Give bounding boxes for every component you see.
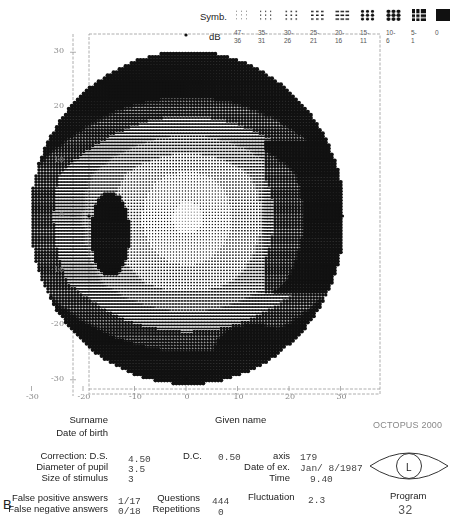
dc-label: D.C.	[183, 450, 202, 461]
y-tick-label: -30	[40, 374, 64, 383]
y-tick-label: 10	[40, 155, 64, 164]
x-tick-label: 30	[332, 392, 352, 401]
false-positive-label: False positive answers	[0, 492, 108, 503]
x-tick-label: 0	[177, 392, 197, 401]
surname-label: Surname	[0, 414, 108, 425]
time-label: Time	[232, 472, 290, 483]
x-tick-label: -30	[23, 392, 43, 401]
date-label: Date of ex.	[232, 461, 290, 472]
stimulus-label: Size of stimulus	[0, 472, 108, 483]
brand-logo: OCTOPUS 2000	[373, 420, 442, 430]
stimulus-value: 3	[128, 474, 134, 485]
repetitions-label: Repetitions	[140, 503, 200, 514]
visual-field-chart	[0, 0, 452, 420]
x-tick-label: -10	[126, 392, 146, 401]
questions-value: 444	[212, 496, 229, 507]
correction-ds-label: Correction: D.S.	[0, 450, 108, 461]
fluctuation-value: 2.3	[308, 495, 325, 506]
x-tick-label: 10	[229, 392, 249, 401]
axis-value: 179	[300, 452, 317, 463]
questions-label: Questions	[140, 492, 200, 503]
false-negative-value: 0/18	[118, 506, 141, 517]
dob-label: Date of birth	[0, 427, 108, 438]
left-eye-icon: L	[368, 444, 450, 488]
given-name-label: Given name	[215, 414, 266, 425]
date-value: Jan/ 8/1987	[300, 463, 363, 474]
program-value: 32	[398, 504, 412, 518]
y-tick-label: 0	[40, 210, 64, 219]
y-tick-label: 30	[40, 46, 64, 55]
y-tick-label: -10	[40, 265, 64, 274]
pupil-label: Diameter of pupil	[0, 461, 108, 472]
x-tick-label: 20	[280, 392, 300, 401]
fluctuation-label: Fluctuation	[248, 491, 294, 502]
y-tick-label: -20	[40, 319, 64, 328]
time-value: 9.40	[310, 474, 333, 485]
false-negative-label: False negative answers	[0, 503, 108, 514]
repetitions-value: 0	[218, 507, 224, 518]
y-tick-label: 20	[40, 101, 64, 110]
eye-letter: L	[406, 462, 412, 473]
x-tick-label: -20	[74, 392, 94, 401]
axis-label: axis	[232, 450, 290, 461]
program-label: Program	[390, 490, 426, 501]
